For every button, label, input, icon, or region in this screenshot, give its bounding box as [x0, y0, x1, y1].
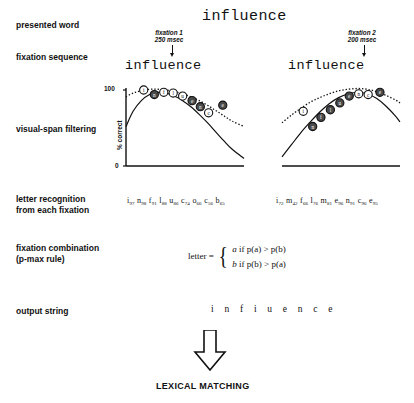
visual-span-letter-marker: n [355, 90, 363, 98]
letter-percent: 98 [141, 201, 146, 206]
marker-letter: n [357, 91, 360, 97]
formula-case-b-result: b [232, 259, 237, 269]
formula-case-b-condition: if p(b) > p(a) [239, 259, 286, 269]
formula-case-a-result: a [232, 244, 237, 254]
letter-recognition-item: c96 [358, 196, 367, 205]
p-max-rule-formula: letter = { a if p(a) > p(b) b if p(b) > … [188, 243, 286, 269]
letter-recognition-item: i72 [276, 196, 283, 205]
fixation-1-word: influence [125, 58, 202, 73]
letter-percent: 91 [350, 201, 355, 206]
formula-case-a: a if p(a) > p(b) [232, 244, 286, 254]
letter-recognition-item: u86 [169, 196, 178, 205]
visual-span-letter-marker: n [309, 122, 317, 130]
formula-lhs: letter = [188, 251, 214, 261]
row-label-fixation-sequence: fixation sequence [16, 52, 88, 63]
letter-recognition-item: n98 [137, 196, 146, 205]
marker-letter: u [339, 100, 342, 106]
visual-span-letter-marker: f [160, 88, 168, 96]
visual-span-letter-marker: n [150, 90, 158, 98]
formula-brace-icon: { [218, 243, 227, 269]
visual-span-letter-marker: n [196, 103, 204, 111]
letter-percent: 88 [162, 201, 167, 206]
letter-recognition-item: m81 [321, 196, 332, 205]
row-label-output-string: output string [16, 306, 68, 317]
letter-glyph: o [192, 196, 196, 205]
formula-case-b: b if p(b) > p(a) [232, 259, 286, 269]
letter-percent: 72 [278, 201, 283, 206]
letter-percent: 66 [197, 201, 202, 206]
chart2-plot: influence [262, 86, 402, 178]
letter-percent: 81 [327, 201, 332, 206]
marker-letter: u [181, 93, 184, 99]
letter-percent: 66 [303, 201, 308, 206]
row-label-fixation-combination: fixation combination (p-max rule) [16, 243, 99, 264]
letter-recognition-item: f66 [300, 196, 308, 205]
letter-recognition-item: e96 [335, 196, 344, 205]
lexical-matching-label: LEXICAL MATCHING [156, 381, 249, 391]
marker-letter: n [153, 92, 156, 98]
row-label-presented-word: presented word [16, 20, 79, 31]
marker-letter: f [320, 114, 322, 120]
visual-span-letter-marker: i [140, 86, 148, 94]
visual-span-letter-marker: i [299, 107, 307, 115]
letter-glyph: b [216, 196, 220, 205]
letter-percent: 96 [361, 201, 366, 206]
visual-span-letter-marker: l [326, 106, 334, 114]
letter-glyph: m [321, 196, 327, 205]
letter-percent: 86 [173, 201, 178, 206]
marker-letter: n [311, 124, 314, 130]
fixation-1-note: fixation 1 250 msec [135, 29, 203, 44]
marker-letter: n [199, 104, 202, 110]
fixation-2-note: fixation 2 200 msec [328, 29, 396, 44]
fixation-2-word: influence [288, 58, 365, 73]
letter-recognition-item: o66 [192, 196, 201, 205]
presented-word-text: influence [202, 8, 287, 25]
letter-percent: 91 [152, 201, 157, 206]
letter-recognition-item: b65 [216, 196, 225, 205]
row-label-letter-recognition: letter recognition from each fixation [16, 194, 89, 215]
letter-recognition-item: c74 [181, 196, 190, 205]
letter-recognition-item: c56 [204, 196, 213, 205]
chart-curve-solid [126, 92, 244, 158]
letter-recognition-item: l76 [310, 196, 317, 205]
letter-recognition-fixation-1: i97n98f91l88u86c74o66c56b65 [127, 196, 227, 205]
letter-recognition-item: n91 [346, 196, 355, 205]
formula-case-a-condition: if p(a) > p(b) [239, 244, 286, 254]
visual-span-letter-marker: e [345, 92, 353, 100]
letter-recognition-item: i97 [127, 196, 134, 205]
letter-percent: 96 [338, 201, 343, 206]
visual-span-letter-marker: e [188, 97, 196, 105]
letter-recognition-fixation-2: i72m42f66l76m81e96n91c96e95 [276, 196, 380, 205]
visual-span-letter-marker: u [336, 99, 344, 107]
marker-letter: f [163, 89, 165, 95]
letter-glyph: e [369, 196, 373, 205]
letter-percent: 56 [208, 201, 213, 206]
lexical-matching-arrow-icon [192, 330, 228, 372]
visual-span-letter-marker: u [179, 92, 187, 100]
fixation-1-arrow-icon [169, 45, 175, 58]
fixation-2-arrow-icon [361, 45, 367, 58]
visual-span-chart-fixation-2: influence [262, 86, 402, 178]
letter-recognition-item: l88 [159, 196, 166, 205]
visual-span-letter-marker: l [169, 89, 177, 97]
letter-recognition-item: m42 [286, 196, 297, 205]
letter-recognition-item: f91 [149, 196, 157, 205]
row-label-visual-span-filtering: visual-span filtering [16, 124, 96, 135]
visual-span-letter-marker: c [205, 109, 213, 117]
letter-percent: 95 [373, 201, 378, 206]
visual-span-letter-marker: e [219, 101, 227, 109]
letter-percent: 76 [313, 201, 318, 206]
output-string-text: i n f i u e n c e [211, 304, 337, 314]
visual-span-letter-marker: f [317, 113, 325, 121]
letter-percent: 97 [129, 201, 134, 206]
chart1-plot: influence [106, 86, 246, 178]
letter-recognition-item: e95 [369, 196, 378, 205]
visual-span-letter-marker: e [376, 88, 384, 96]
visual-span-letter-marker: c [364, 90, 372, 98]
letter-percent: 74 [185, 201, 190, 206]
visual-span-chart-fixation-1: 100 0 % correct influence [106, 86, 246, 178]
letter-percent: 65 [220, 201, 225, 206]
letter-percent: 42 [292, 201, 297, 206]
